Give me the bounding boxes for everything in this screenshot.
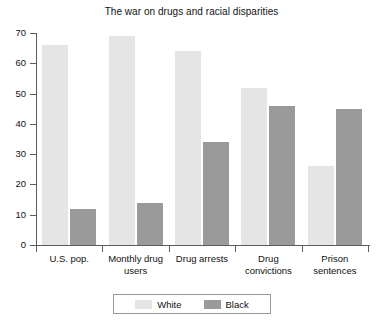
bar-black: [137, 203, 163, 245]
legend-swatch-white: [135, 300, 152, 309]
bar-group: [302, 33, 368, 245]
bar-group: [102, 33, 168, 245]
legend-label: White: [157, 299, 181, 310]
y-axis-tick-label: 50: [0, 88, 26, 99]
plot-area: [36, 33, 368, 245]
bar-group: [36, 33, 102, 245]
x-axis-tick: [36, 246, 37, 252]
y-axis-tick-label: 30: [0, 148, 26, 159]
bar-white: [109, 36, 135, 245]
x-axis-tick: [169, 246, 170, 252]
legend-label: Black: [226, 299, 249, 310]
y-axis-tick-label: 70: [0, 27, 26, 38]
bar-group: [235, 33, 301, 245]
x-axis-category-label: Drug convictions: [235, 253, 301, 276]
bar-white: [241, 88, 267, 245]
legend-swatch-black: [204, 300, 221, 309]
bar-group: [169, 33, 235, 245]
x-axis-tick: [235, 246, 236, 252]
chart-legend: WhiteBlack: [113, 294, 271, 314]
x-axis-category-label: U.S. pop.: [36, 253, 102, 265]
chart-title: The war on drugs and racial disparities: [0, 6, 383, 17]
y-axis-tick-label: 0: [0, 239, 26, 250]
legend-entry: White: [135, 299, 181, 310]
x-axis-tick: [368, 246, 369, 252]
x-axis-line: [36, 245, 370, 246]
bar-white: [308, 166, 334, 245]
bar-black: [269, 106, 295, 245]
bar-black: [70, 209, 96, 245]
bar-black: [336, 109, 362, 245]
x-axis-tick: [102, 246, 103, 252]
x-axis-category-label: Prison sentences: [302, 253, 368, 276]
legend-entry: Black: [204, 299, 249, 310]
bar-white: [175, 51, 201, 245]
bar-black: [203, 142, 229, 245]
x-axis-tick: [302, 246, 303, 252]
y-axis-tick-label: 20: [0, 178, 26, 189]
x-axis-category-label: Monthly drug users: [102, 253, 168, 276]
bar-white: [42, 45, 68, 245]
x-axis-category-label: Drug arrests: [169, 253, 235, 265]
bar-chart: The war on drugs and racial disparities …: [0, 0, 383, 322]
y-axis-tick-label: 40: [0, 118, 26, 129]
y-axis-tick-label: 60: [0, 57, 26, 68]
y-axis-tick-label: 10: [0, 209, 26, 220]
